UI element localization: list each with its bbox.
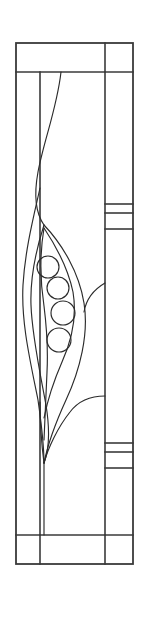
- panel-drawing: [0, 0, 144, 617]
- stained-glass-panel: [0, 0, 144, 617]
